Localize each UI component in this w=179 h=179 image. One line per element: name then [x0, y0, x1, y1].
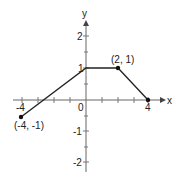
piecewise-line	[21, 68, 148, 117]
y-tick-label-1: 1	[78, 63, 84, 74]
x-axis-label: x	[167, 95, 172, 106]
graph-figure: y x 2 1 -1 -2 0 -4 4 (-4, -1) (2, 1)	[0, 0, 179, 179]
y-axis-arrow-icon	[83, 20, 89, 26]
coordinate-plane: y x 2 1 -1 -2 0 -4 4 (-4, -1) (2, 1)	[0, 0, 179, 179]
point-label-2-1: (2, 1)	[111, 54, 134, 65]
point-neg4-neg1	[19, 115, 23, 119]
y-tick-label-neg2: -2	[73, 157, 82, 168]
x-axis-arrow-icon	[160, 97, 166, 103]
y-axis-label: y	[82, 8, 87, 19]
point-2-1	[116, 66, 120, 70]
y-tick-label-neg1: -1	[73, 126, 82, 137]
x-tick-label-4: 4	[145, 102, 151, 113]
origin-label: 0	[78, 102, 84, 113]
y-tick-label-2: 2	[77, 31, 83, 42]
point-label-neg4-neg1: (-4, -1)	[14, 120, 44, 131]
x-tick-label-neg4: -4	[16, 102, 25, 113]
